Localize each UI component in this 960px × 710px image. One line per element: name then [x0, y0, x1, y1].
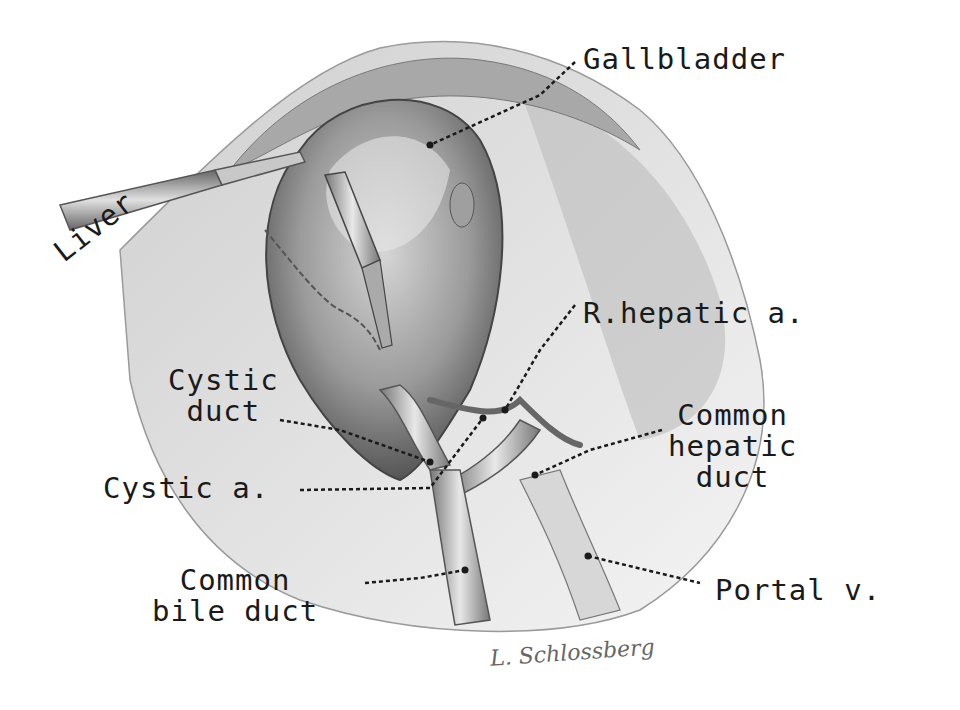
leader-dot-portal-v [585, 553, 592, 560]
leader-dot-cystic-a [480, 415, 487, 422]
label-cystic-duct: Cystic duct [168, 365, 279, 427]
lymph-node [450, 183, 474, 227]
label-gallbladder: Gallbladder [583, 44, 786, 75]
leader-dot-common-bile-duct [462, 567, 469, 574]
leader-dot-common-hepatic-duct [532, 472, 539, 479]
leader-dot-r-hepatic-a [502, 407, 509, 414]
label-portal-v: Portal v. [715, 575, 881, 606]
label-common-bile-duct: Common bile duct [152, 565, 318, 627]
leader-dot-cystic-duct [427, 459, 434, 466]
anatomy-illustration: Gallbladder Liver R.hepatic a. Cystic du… [0, 0, 960, 710]
label-common-hepatic-duct: Common hepatic duct [668, 400, 797, 493]
label-r-hepatic-a: R.hepatic a. [583, 298, 805, 329]
leader-dot-gallbladder [427, 142, 434, 149]
label-cystic-a: Cystic a. [103, 473, 269, 504]
